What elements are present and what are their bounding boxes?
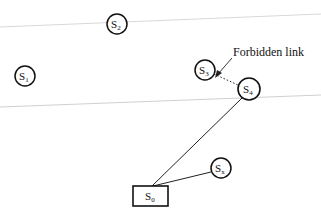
node-s0-sink: S0 <box>133 186 168 206</box>
node-s4: S4 <box>238 78 260 100</box>
network-diagram: Forbidden link S2 S1 S3 S4 Sx S0 <box>0 0 321 216</box>
node-s3: S3 <box>195 60 215 80</box>
upper-boundary-line <box>0 14 321 27</box>
edge-s0-sx <box>153 172 211 186</box>
node-s1: S1 <box>15 66 35 86</box>
node-sx: Sx <box>211 158 231 178</box>
forbidden-link-label: Forbidden link <box>233 45 304 59</box>
lower-boundary-line <box>0 95 321 107</box>
node-s2: S2 <box>107 14 127 34</box>
annotation-arrow-line <box>218 58 232 74</box>
